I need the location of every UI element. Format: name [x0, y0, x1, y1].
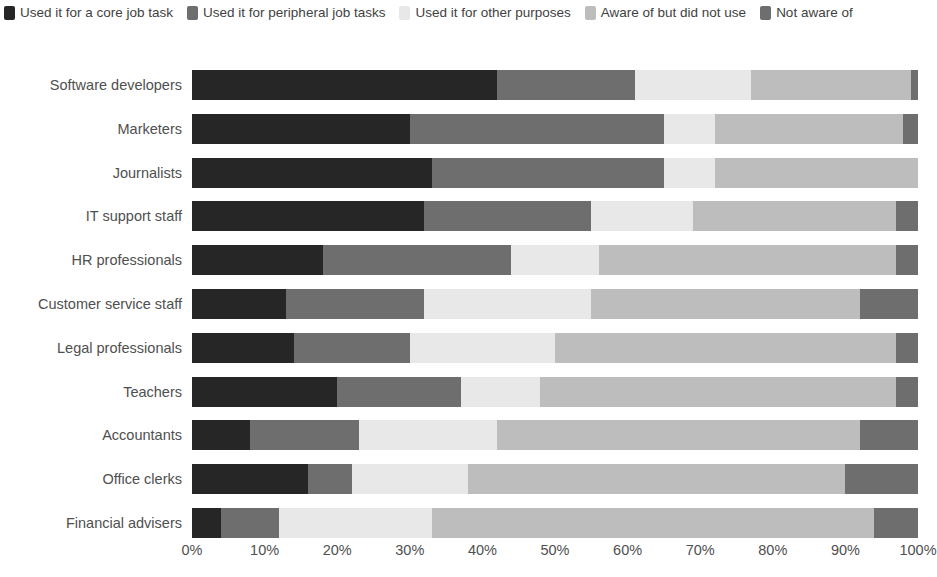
x-axis-tick-label: 50%	[540, 542, 569, 558]
bar-segment[interactable]	[192, 114, 410, 144]
bar-segment[interactable]	[874, 508, 918, 538]
bar-segment[interactable]	[896, 245, 918, 275]
x-axis-tick-label: 80%	[758, 542, 787, 558]
bar-segment[interactable]	[424, 201, 591, 231]
bar-segment[interactable]	[192, 201, 424, 231]
bar-segment[interactable]	[591, 289, 860, 319]
legend-item[interactable]: Not aware of	[760, 4, 853, 21]
bar-segment[interactable]	[279, 508, 431, 538]
bar-segment[interactable]	[715, 114, 904, 144]
bar-segment[interactable]	[221, 508, 279, 538]
bar-segment[interactable]	[192, 464, 308, 494]
bar-segment[interactable]	[693, 201, 896, 231]
bar-row[interactable]	[192, 464, 918, 494]
legend-swatch-icon	[4, 6, 15, 20]
y-axis-tick-label: Accountants	[0, 420, 182, 450]
bar-segment[interactable]	[410, 114, 664, 144]
bar-segment[interactable]	[410, 333, 555, 363]
x-axis-tick-label: 10%	[250, 542, 279, 558]
bar-segment[interactable]	[192, 289, 286, 319]
bar-row[interactable]	[192, 158, 918, 188]
x-axis: 0%10%20%30%40%50%60%70%80%90%100%	[192, 542, 918, 572]
y-axis-tick-label: IT support staff	[0, 201, 182, 231]
legend-item-label: Aware of but did not use	[601, 5, 746, 20]
bar-segment[interactable]	[432, 508, 875, 538]
x-axis-tick-label: 100%	[899, 542, 936, 558]
bar-row[interactable]	[192, 508, 918, 538]
bar-row[interactable]	[192, 289, 918, 319]
bar-segment[interactable]	[286, 289, 424, 319]
y-axis-labels: Software developersMarketersJournalistsI…	[0, 70, 182, 538]
bar-segment[interactable]	[468, 464, 846, 494]
legend-item[interactable]: Used it for a core job task	[4, 4, 173, 21]
y-axis-tick-label: Software developers	[0, 70, 182, 100]
bar-segment[interactable]	[860, 420, 918, 450]
bar-segment[interactable]	[359, 420, 497, 450]
bar-segment[interactable]	[896, 377, 918, 407]
bar-segment[interactable]	[432, 158, 664, 188]
bar-segment[interactable]	[635, 70, 751, 100]
y-axis-tick-label: Legal professionals	[0, 333, 182, 363]
y-axis-tick-label: Teachers	[0, 377, 182, 407]
legend-item[interactable]: Used it for peripheral job tasks	[187, 4, 385, 21]
bar-segment[interactable]	[497, 70, 635, 100]
legend-item[interactable]: Used it for other purposes	[399, 4, 570, 21]
bar-segment[interactable]	[497, 420, 860, 450]
bar-row[interactable]	[192, 70, 918, 100]
y-axis-tick-label: Office clerks	[0, 464, 182, 494]
bar-segment[interactable]	[250, 420, 359, 450]
legend-swatch-icon	[399, 6, 410, 20]
bar-segment[interactable]	[599, 245, 897, 275]
legend-swatch-icon	[760, 6, 771, 20]
bar-segment[interactable]	[192, 245, 323, 275]
x-axis-tick-label: 0%	[182, 542, 203, 558]
legend-item[interactable]: Aware of but did not use	[585, 4, 746, 21]
y-axis-tick-label: HR professionals	[0, 245, 182, 275]
bar-segment[interactable]	[192, 508, 221, 538]
legend-item-label: Not aware of	[776, 5, 853, 20]
bar-segment[interactable]	[192, 158, 432, 188]
y-axis-tick-label: Customer service staff	[0, 289, 182, 319]
bar-segment[interactable]	[751, 70, 911, 100]
bar-segment[interactable]	[192, 377, 337, 407]
y-axis-tick-label: Journalists	[0, 158, 182, 188]
bar-segment[interactable]	[192, 333, 294, 363]
bar-segment[interactable]	[911, 70, 918, 100]
x-axis-tick-label: 60%	[613, 542, 642, 558]
x-axis-tick-label: 30%	[395, 542, 424, 558]
bar-row[interactable]	[192, 377, 918, 407]
chart-legend: Used it for a core job taskUsed it for p…	[4, 4, 919, 21]
bar-segment[interactable]	[845, 464, 918, 494]
bar-segment[interactable]	[323, 245, 512, 275]
bar-segment[interactable]	[308, 464, 352, 494]
bar-segment[interactable]	[424, 289, 591, 319]
legend-swatch-icon	[187, 6, 198, 20]
bar-segment[interactable]	[664, 158, 715, 188]
bar-segment[interactable]	[192, 70, 497, 100]
plot-area	[192, 70, 918, 538]
bar-segment[interactable]	[352, 464, 468, 494]
bar-row[interactable]	[192, 333, 918, 363]
x-axis-tick-label: 90%	[831, 542, 860, 558]
bar-segment[interactable]	[664, 114, 715, 144]
bar-row[interactable]	[192, 114, 918, 144]
bar-segment[interactable]	[294, 333, 410, 363]
legend-item-label: Used it for a core job task	[20, 5, 173, 20]
legend-swatch-icon	[585, 6, 596, 20]
bar-segment[interactable]	[192, 420, 250, 450]
bar-segment[interactable]	[903, 114, 918, 144]
bar-row[interactable]	[192, 245, 918, 275]
bar-segment[interactable]	[337, 377, 460, 407]
bar-segment[interactable]	[591, 201, 693, 231]
bar-segment[interactable]	[860, 289, 918, 319]
bar-segment[interactable]	[555, 333, 896, 363]
bar-segment[interactable]	[540, 377, 896, 407]
bar-segment[interactable]	[715, 158, 918, 188]
bar-row[interactable]	[192, 420, 918, 450]
bar-row[interactable]	[192, 201, 918, 231]
bar-segment[interactable]	[896, 201, 918, 231]
bar-segment[interactable]	[461, 377, 541, 407]
bar-segment[interactable]	[511, 245, 598, 275]
bar-segment[interactable]	[896, 333, 918, 363]
